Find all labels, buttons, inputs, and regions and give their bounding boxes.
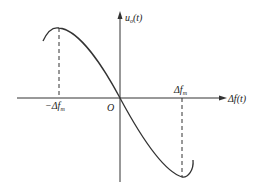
y-axis	[118, 11, 123, 182]
discriminator-s-curve	[43, 28, 193, 177]
discriminator-characteristic-diagram: uo(t) Δf(t) O −Δfm Δfm	[0, 0, 263, 191]
positive-tick-label: Δfm	[173, 84, 188, 96]
x-axis-arrow-icon	[219, 96, 227, 101]
x-axis-label: Δf(t)	[227, 93, 247, 105]
y-axis-arrow-icon	[118, 11, 123, 19]
origin-label: O	[107, 102, 114, 113]
negative-tick-label: −Δfm	[45, 100, 65, 112]
y-axis-label: uo(t)	[125, 12, 143, 24]
